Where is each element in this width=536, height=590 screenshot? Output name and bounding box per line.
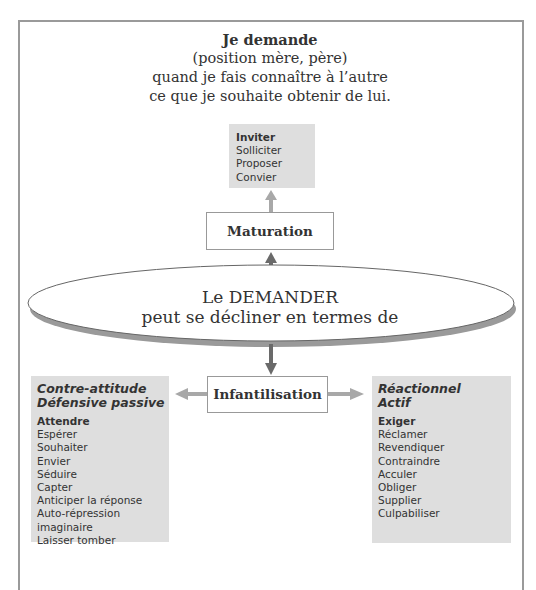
left-box-heading-line: Défensive passive: [37, 396, 169, 410]
ellipse-text: Le DEMANDER peut se décliner en termes d…: [30, 287, 510, 327]
right-box-item: Supplier: [378, 494, 511, 507]
infantilisation-box: Infantilisation: [207, 376, 328, 413]
arrow-down-dark-icon: [265, 344, 277, 375]
left-box-heading-line: Contre-attitude: [37, 382, 169, 396]
left-box: Contre-attitude Défensive passive Attend…: [31, 376, 169, 542]
maturation-label: Maturation: [227, 223, 313, 239]
left-box-item: Souhaiter: [37, 441, 169, 454]
arrow-right-light-icon: [328, 388, 364, 400]
left-box-item: Attendre: [37, 415, 169, 428]
infantilisation-label: Infantilisation: [213, 386, 322, 402]
left-box-item: Laisser tomber: [37, 534, 169, 547]
right-box-item: Obliger: [378, 481, 511, 494]
right-box-heading-line: Réactionnel: [378, 382, 511, 396]
right-box: Réactionnel Actif Exiger Réclamer Revend…: [372, 376, 511, 543]
right-box-item: Exiger: [378, 415, 511, 428]
right-box-heading: Réactionnel Actif: [378, 382, 511, 410]
ellipse-line-1: Le DEMANDER: [30, 287, 510, 307]
right-box-item: Réclamer: [378, 428, 511, 441]
right-box-item: Acculer: [378, 468, 511, 481]
left-box-item: Auto-répression imaginaire: [37, 507, 169, 533]
left-box-item: Anticiper la réponse: [37, 494, 169, 507]
right-box-item: Revendiquer: [378, 441, 511, 454]
right-box-item: Culpabiliser: [378, 507, 511, 520]
ellipse-line-2: peut se décliner en termes de: [30, 307, 510, 327]
arrow-left-light-icon: [175, 388, 207, 400]
maturation-box: Maturation: [206, 212, 334, 250]
left-box-item: Envier: [37, 455, 169, 468]
right-box-heading-line: Actif: [378, 396, 511, 410]
right-box-item: Contraindre: [378, 455, 511, 468]
arrow-up-light-icon: [265, 190, 277, 212]
left-box-item: Espérer: [37, 428, 169, 441]
left-box-item: Séduire: [37, 468, 169, 481]
left-box-item: Capter: [37, 481, 169, 494]
left-box-heading: Contre-attitude Défensive passive: [37, 382, 169, 410]
